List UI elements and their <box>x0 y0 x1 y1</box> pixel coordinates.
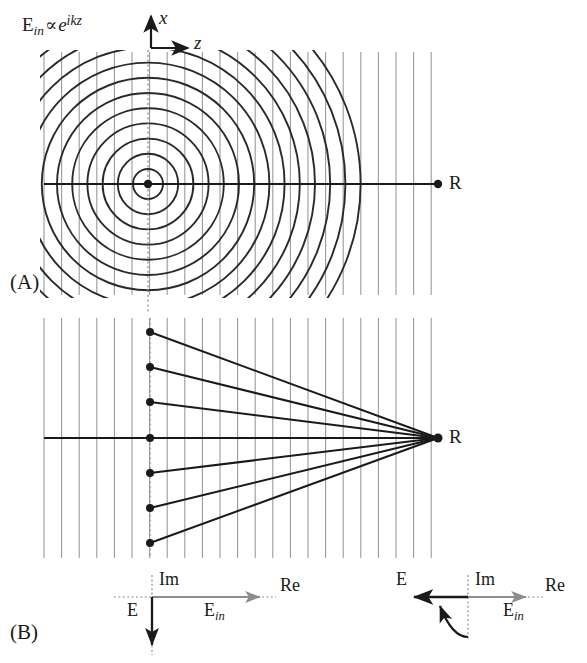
formula-proportional-sign: ∝ <box>44 15 58 35</box>
spherical-wavefront <box>0 0 345 381</box>
panel-b-detector-point <box>434 434 443 443</box>
inset-left-e-label: E <box>127 601 138 619</box>
formula-e-subscript: in <box>34 23 44 38</box>
axis-x-label: x <box>159 8 167 27</box>
panel-a-detector-point <box>434 180 442 188</box>
converging-ray <box>150 402 438 438</box>
converging-ray <box>150 438 438 543</box>
inset-left-re-label: Re <box>280 576 300 594</box>
formula-exp-power: ikz <box>67 13 82 28</box>
figure-canvas <box>0 0 587 663</box>
converging-ray <box>150 332 438 438</box>
inset-right-ein-sub: in <box>514 609 524 623</box>
figure-root: Ein∝eikz x z R (A) R (B) Im Re E Ein Im … <box>0 0 587 663</box>
panel-b-point-r-label: R <box>449 427 462 446</box>
aperture-point <box>146 434 154 442</box>
inset-right-ein-main: E <box>503 600 514 620</box>
inset-right-re-label: Re <box>545 576 565 594</box>
converging-ray <box>150 438 438 508</box>
formula-e: E <box>22 14 34 35</box>
aperture-point <box>146 539 154 547</box>
panel-a-source-point <box>144 180 152 188</box>
inset-left-ein-label: Ein <box>204 601 225 622</box>
panel-a-axes <box>151 16 188 48</box>
aperture-point <box>146 398 154 406</box>
aperture-point <box>146 469 154 477</box>
inset-left-phasor <box>114 575 276 655</box>
inset-right-rotation-arc <box>440 606 468 637</box>
panel-a-label: (A) <box>10 272 39 293</box>
inset-left-ein-main: E <box>204 600 215 620</box>
spherical-wavefront <box>0 0 361 397</box>
panel-a-point-r-label: R <box>449 173 462 192</box>
aperture-point <box>146 504 154 512</box>
converging-ray <box>150 367 438 438</box>
converging-ray <box>150 438 438 473</box>
panel-b-label: (B) <box>10 622 38 643</box>
incident-field-formula: Ein∝eikz <box>22 14 82 37</box>
aperture-point <box>146 328 154 336</box>
inset-left-im-label: Im <box>159 570 179 588</box>
formula-exp-base: e <box>58 14 66 35</box>
inset-right-im-label: Im <box>475 570 495 588</box>
inset-right-ein-label: Ein <box>503 601 524 622</box>
inset-right-e-label: E <box>396 570 407 588</box>
aperture-point <box>146 363 154 371</box>
axis-z-label: z <box>194 33 201 52</box>
inset-left-ein-sub: in <box>215 609 225 623</box>
panel-a-spherical-wavefronts <box>0 0 361 397</box>
